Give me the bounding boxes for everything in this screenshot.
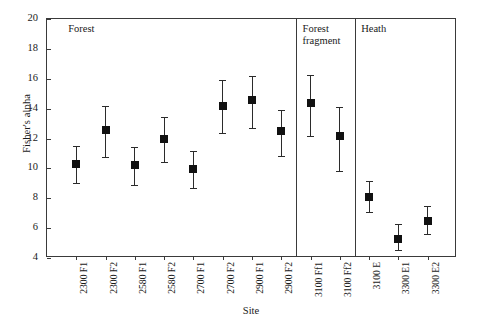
x-axis-tick-label: 2580 F2 [167,262,177,326]
error-bar-cap-upper [366,181,373,182]
error-bar-cap-upper [424,206,431,207]
error-bar-cap-upper [73,146,80,147]
group-label: Forest [68,23,94,35]
error-bar-cap-upper [219,80,226,81]
group-separator-line [355,19,356,256]
error-bar-cap-lower [307,136,314,137]
plot-area: ForestForest fragmentHeath [46,18,456,257]
error-bar-cap-lower [190,188,197,189]
error-bar-cap-lower [219,133,226,134]
x-axis-tick-mark [340,256,341,260]
data-marker [365,193,373,201]
y-axis-tick-label: 18 [12,43,38,53]
y-axis-tick-label: 14 [12,103,38,113]
data-marker [307,99,315,107]
x-axis-tick-mark [193,256,194,260]
y-axis-tick-label: 6 [12,222,38,232]
data-marker [219,102,227,110]
data-marker [131,161,139,169]
x-axis-tick-label: 2700 F2 [226,262,236,326]
y-axis-tick-mark [47,109,51,110]
data-marker [160,135,168,143]
x-axis-tick-mark [369,256,370,260]
x-axis-tick-mark [428,256,429,260]
x-axis-tick-label: 3300 E2 [431,262,441,326]
error-bar-cap-lower [249,128,256,129]
y-axis-tick-mark [47,198,51,199]
error-bar-cap-lower [336,171,343,172]
data-marker [72,160,80,168]
y-axis-tick-label: 4 [12,252,38,262]
error-bar-cap-upper [131,147,138,148]
y-axis-tick-labels: 468101214161820 [10,0,38,326]
error-bar-cap-upper [190,151,197,152]
y-axis-tick-label: 12 [12,133,38,143]
error-bar-cap-upper [278,110,285,111]
error-bar-cap-lower [395,250,402,251]
data-marker [189,165,197,173]
x-axis-tick-mark [106,256,107,260]
data-marker [102,126,110,134]
group-separator-line [296,19,297,256]
y-axis-tick-mark [47,228,51,229]
x-axis-tick-mark [311,256,312,260]
x-axis-tick-label: 2580 F1 [138,262,148,326]
y-axis-tick-label: 20 [12,13,38,23]
y-axis-tick-mark [47,139,51,140]
x-axis-tick-label: 3100 Ff2 [343,262,353,326]
x-axis-tick-label: 3300 E1 [401,262,411,326]
error-bar-cap-upper [102,106,109,107]
y-axis-tick-label: 16 [12,73,38,83]
fishers-alpha-scatter-chart: Fisher's alpha 468101214161820 ForestFor… [0,0,477,326]
error-bar-cap-upper [307,75,314,76]
x-axis-tick-label: 2700 F1 [196,262,206,326]
group-label: Heath [361,23,386,35]
error-bar-cap-lower [278,156,285,157]
x-axis-tick-label: 2900 F1 [255,262,265,326]
error-bar-cap-upper [336,107,343,108]
group-label: Forest fragment [303,23,341,46]
y-axis-tick-label: 10 [12,162,38,172]
x-axis-tick-mark [398,256,399,260]
data-marker [424,217,432,225]
x-axis-tick-mark [76,256,77,260]
data-marker [248,96,256,104]
x-axis-tick-label: 3100 E [372,262,382,326]
x-axis-tick-label: 2300 F2 [109,262,119,326]
x-axis-tick-mark [223,256,224,260]
x-axis-tick-label: 3100 Ff1 [314,262,324,326]
error-bar-cap-upper [249,76,256,77]
error-bar-cap-upper [395,224,402,225]
error-bar-cap-lower [366,212,373,213]
y-axis-tick-mark [47,19,51,20]
error-bar-cap-upper [161,117,168,118]
y-axis-tick-mark [47,168,51,169]
y-axis-tick-mark [47,79,51,80]
x-axis-tick-mark [252,256,253,260]
y-axis-tick-mark [47,49,51,50]
data-marker [336,132,344,140]
error-bar-cap-lower [131,185,138,186]
x-axis-title: Site [46,305,456,316]
y-axis-tick-label: 8 [12,192,38,202]
x-axis-tick-mark [281,256,282,260]
data-marker [394,235,402,243]
error-bar-cap-lower [102,157,109,158]
error-bar-cap-lower [161,162,168,163]
x-axis-tick-mark [135,256,136,260]
error-bar-cap-lower [424,234,431,235]
x-axis-tick-label: 2300 F1 [79,262,89,326]
data-marker [277,127,285,135]
x-axis-tick-label: 2900 F2 [284,262,294,326]
error-bar-cap-lower [73,183,80,184]
y-axis-tick-mark [47,258,51,259]
x-axis-tick-mark [164,256,165,260]
